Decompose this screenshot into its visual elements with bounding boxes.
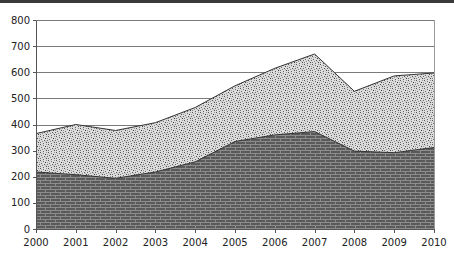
y-tick-label: 800 bbox=[11, 15, 30, 26]
y-tick-label: 700 bbox=[11, 41, 30, 52]
y-tick-label: 300 bbox=[11, 145, 30, 156]
y-tick-label: 0 bbox=[24, 224, 30, 235]
y-tick-label: 500 bbox=[11, 93, 30, 104]
y-tick-label: 400 bbox=[11, 119, 30, 130]
x-tick-label: 2009 bbox=[381, 237, 406, 248]
x-tick-label: 2007 bbox=[302, 237, 327, 248]
area-chart: 0100200300400500600700800 20002001200220… bbox=[0, 0, 454, 259]
y-tick-label: 600 bbox=[11, 67, 30, 78]
y-tick-label: 200 bbox=[11, 171, 30, 182]
x-tick-label: 2004 bbox=[182, 237, 207, 248]
y-tick-label: 100 bbox=[11, 197, 30, 208]
x-axis-labels: 2000200120022003200420052006200720082009… bbox=[23, 237, 446, 248]
x-tick-label: 2010 bbox=[421, 237, 446, 248]
y-axis-labels: 0100200300400500600700800 bbox=[11, 15, 30, 235]
x-tick-label: 2005 bbox=[222, 237, 247, 248]
x-tick-label: 2006 bbox=[262, 237, 287, 248]
x-tick-label: 2008 bbox=[342, 237, 367, 248]
areas bbox=[36, 54, 434, 229]
x-tick-label: 2000 bbox=[23, 237, 48, 248]
x-tick-label: 2001 bbox=[63, 237, 88, 248]
x-tick-label: 2003 bbox=[143, 237, 168, 248]
x-tick-label: 2002 bbox=[103, 237, 128, 248]
